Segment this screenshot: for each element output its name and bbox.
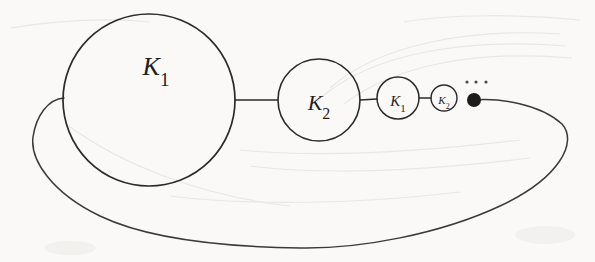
edge-node2-node3 [360,99,377,100]
ellipsis-dot-2 [474,80,477,83]
ellipsis-dot-3 [484,80,487,83]
scan-smudge-bottom-left [44,241,96,255]
scan-smudge-bottom-right [515,226,575,244]
figure-container: K1 K2 K1 K2 [0,0,595,262]
graph-diagram: K1 K2 K1 K2 [0,0,595,262]
terminal-vertex-dot [467,93,481,107]
ellipsis-dot-1 [465,80,468,83]
